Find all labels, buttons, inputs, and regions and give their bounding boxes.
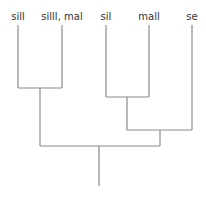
- node-n1: [18, 25, 62, 146]
- node-root: [40, 146, 160, 186]
- tree-diagram: sill silll, mal sil mall se: [0, 0, 206, 197]
- leaf-label-mall: mall: [138, 11, 159, 22]
- leaf-label-sill: sill: [11, 11, 25, 22]
- leaf-label-se: se: [186, 11, 197, 22]
- node-n3: [127, 25, 192, 146]
- leaf-label-silll-mal: silll, mal: [41, 11, 82, 22]
- node-n2: [106, 25, 149, 130]
- leaf-label-sil: sil: [101, 11, 112, 22]
